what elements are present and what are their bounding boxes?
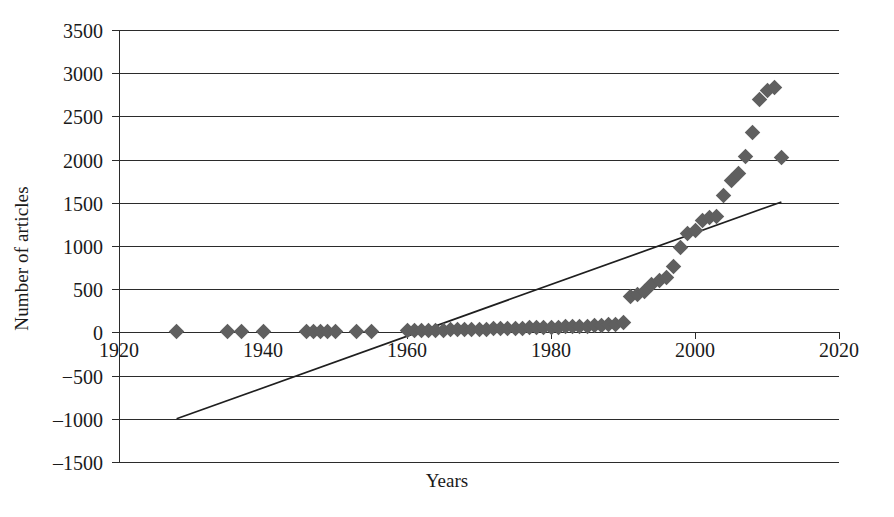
plot-area: 3500300025002000150010005000−500–1000–15… xyxy=(119,30,839,462)
scatter-chart: Number of articles Years 350030002500200… xyxy=(0,0,894,517)
y-axis-title: Number of articles xyxy=(0,0,44,517)
data-point xyxy=(363,323,379,339)
x-axis-tick xyxy=(839,332,840,339)
gridline xyxy=(119,462,839,463)
data-point xyxy=(234,324,250,340)
data-point xyxy=(169,324,185,340)
data-point xyxy=(673,240,689,256)
data-point xyxy=(716,187,732,203)
y-axis-tick: 1500 xyxy=(112,203,119,204)
y-axis-tick: −500 xyxy=(112,376,119,377)
y-axis-tick: 3000 xyxy=(112,73,119,74)
y-axis-tick-label: 3000 xyxy=(63,64,103,84)
y-axis-tick-label: 2000 xyxy=(63,151,103,171)
y-axis-tick-label: –1500 xyxy=(53,453,103,473)
y-axis-tick: 2000 xyxy=(112,160,119,161)
y-axis-tick: 3500 xyxy=(112,30,119,31)
y-axis-tick: 0 xyxy=(112,332,119,333)
data-point xyxy=(255,324,271,340)
y-axis-tick-label: –1000 xyxy=(53,410,103,430)
data-point xyxy=(219,324,235,340)
data-point xyxy=(774,150,790,166)
y-axis-tick-label: 2500 xyxy=(63,107,103,127)
data-point xyxy=(738,148,754,164)
y-axis-tick: 500 xyxy=(112,289,119,290)
y-axis-tick: 1000 xyxy=(112,246,119,247)
y-axis-tick: 2500 xyxy=(112,116,119,117)
data-point xyxy=(349,323,365,339)
y-axis-tick: –1000 xyxy=(112,419,119,420)
y-axis-tick-label: 500 xyxy=(73,280,103,300)
y-axis-tick-label: −500 xyxy=(62,367,103,387)
y-axis-tick: –1500 xyxy=(112,462,119,463)
data-point xyxy=(745,125,761,141)
y-axis-tick-label: 1000 xyxy=(63,237,103,257)
y-axis-tick-label: 1500 xyxy=(63,194,103,214)
y-axis-tick-label: 3500 xyxy=(63,21,103,41)
x-axis-title: Years xyxy=(0,470,894,492)
data-point-layer xyxy=(119,30,839,462)
